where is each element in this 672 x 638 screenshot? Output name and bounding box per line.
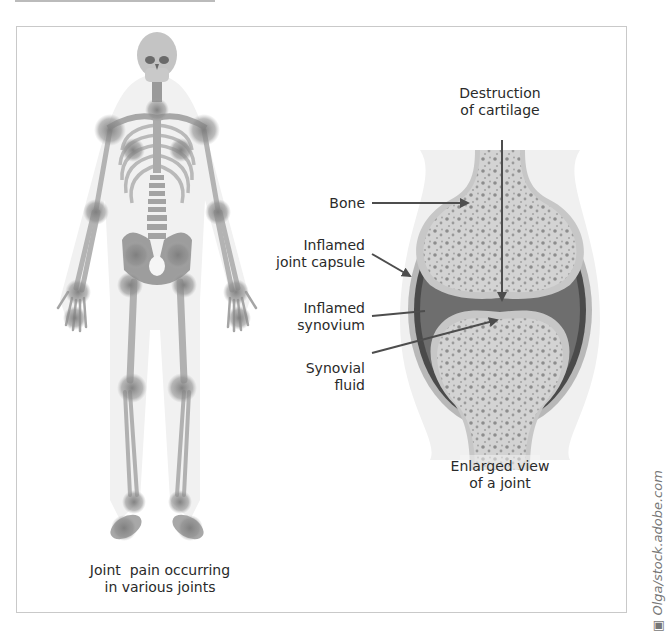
image-credit: ▣ Olga/stock.adobe.com bbox=[650, 470, 665, 632]
fluid-label: Synovial fluid bbox=[250, 360, 365, 394]
synovium-label: Inflamed synovium bbox=[250, 300, 365, 334]
capsule-label-line2: joint capsule bbox=[240, 254, 365, 271]
cartilage-label-line1: Destruction bbox=[420, 85, 580, 102]
skeleton-caption: Joint pain occurring in various joints bbox=[60, 562, 260, 596]
cartilage-label: Destruction of cartilage bbox=[420, 85, 580, 119]
capsule-label-line1: Inflamed bbox=[240, 237, 365, 254]
skeleton-caption-line2: in various joints bbox=[60, 579, 260, 596]
skeleton-figure bbox=[58, 32, 256, 544]
joint-caption: Enlarged view of a joint bbox=[420, 458, 580, 492]
capsule-label: Inflamed joint capsule bbox=[240, 237, 365, 271]
fluid-label-line1: Synovial bbox=[250, 360, 365, 377]
joint-caption-line2: of a joint bbox=[420, 475, 580, 492]
bone-label: Bone bbox=[250, 195, 365, 212]
skeleton-caption-line1: Joint pain occurring bbox=[60, 562, 260, 579]
credit-text: Olga/stock.adobe.com bbox=[650, 470, 665, 615]
joint-caption-line1: Enlarged view bbox=[420, 458, 580, 475]
fluid-label-line2: fluid bbox=[250, 377, 365, 394]
capsule-arrow bbox=[372, 254, 410, 276]
joint-diagram bbox=[380, 140, 620, 470]
synovium-label-line1: Inflamed bbox=[250, 300, 365, 317]
camera-icon: ▣ bbox=[650, 620, 665, 632]
cartilage-label-line2: of cartilage bbox=[420, 102, 580, 119]
bone-label-text: Bone bbox=[250, 195, 365, 212]
synovium-label-line2: synovium bbox=[250, 317, 365, 334]
